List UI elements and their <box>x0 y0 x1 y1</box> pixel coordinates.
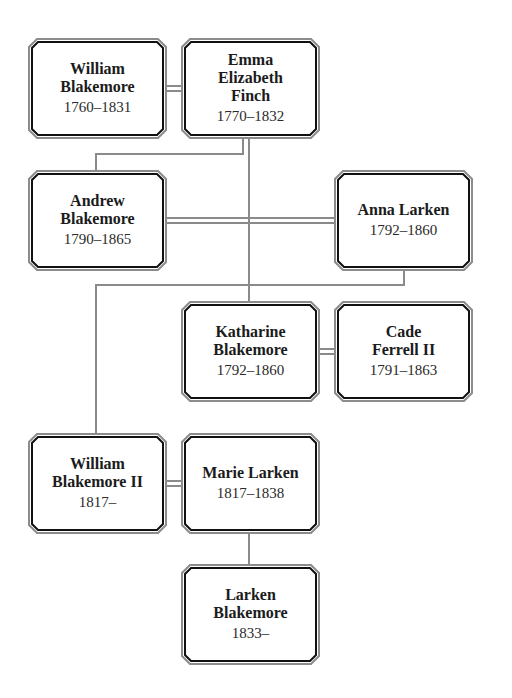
marriage-line-william-ii-marie <box>167 481 181 486</box>
person-box-emma-elizabeth-finch[interactable]: Emma Elizabeth Finch 1770–1832 <box>181 38 320 139</box>
name-line: Anna Larken <box>357 201 449 219</box>
person-name: Anna Larken <box>357 201 449 219</box>
name-line: William <box>60 60 134 78</box>
name-line: Blakemore II <box>52 473 143 491</box>
name-line: Katharine <box>213 323 287 341</box>
marriage-line-william-emma <box>167 86 181 91</box>
person-dates: 1770–1832 <box>217 106 285 126</box>
person-dates: 1833– <box>232 623 270 643</box>
name-line: Emma <box>218 51 283 69</box>
person-name: Katharine Blakemore <box>213 323 287 359</box>
person-name: Marie Larken <box>202 464 298 482</box>
person-name: Cade Ferrell II <box>372 323 435 359</box>
name-line: Ferrell II <box>372 341 435 359</box>
descent-line-to-andrew <box>96 139 243 170</box>
person-dates: 1792–1860 <box>217 360 285 380</box>
person-name: Andrew Blakemore <box>60 192 134 228</box>
person-name: William Blakemore <box>60 60 134 96</box>
name-line: Blakemore <box>213 604 287 622</box>
name-line: Blakemore <box>60 210 134 228</box>
person-box-cade-ferrell-ii[interactable]: Cade Ferrell II 1791–1863 <box>334 301 473 402</box>
name-line: Blakemore <box>213 341 287 359</box>
name-line: Cade <box>372 323 435 341</box>
person-dates: 1791–1863 <box>370 360 438 380</box>
name-line: Marie Larken <box>202 464 298 482</box>
person-name: Larken Blakemore <box>213 586 287 622</box>
person-box-andrew-blakemore[interactable]: Andrew Blakemore 1790–1865 <box>28 170 167 271</box>
marriage-line-katharine-cade <box>320 349 334 354</box>
person-name: William Blakemore II <box>52 455 143 491</box>
name-line: William <box>52 455 143 473</box>
person-dates: 1760–1831 <box>64 97 132 117</box>
person-box-william-blakemore-ii[interactable]: William Blakemore II 1817– <box>28 433 167 534</box>
person-box-marie-larken[interactable]: Marie Larken 1817–1838 <box>181 433 320 534</box>
person-dates: 1790–1865 <box>64 229 132 249</box>
person-name: Emma Elizabeth Finch <box>218 51 283 105</box>
name-line: Finch <box>218 87 283 105</box>
name-line: Elizabeth <box>218 69 283 87</box>
person-dates: 1792–1860 <box>370 220 438 240</box>
name-line: Andrew <box>60 192 134 210</box>
marriage-line-andrew-anna <box>167 218 334 223</box>
name-line: Blakemore <box>60 78 134 96</box>
person-box-william-blakemore[interactable]: William Blakemore 1760–1831 <box>28 38 167 139</box>
person-box-larken-blakemore[interactable]: Larken Blakemore 1833– <box>181 564 320 665</box>
name-line: Larken <box>213 586 287 604</box>
person-dates: 1817–1838 <box>217 483 285 503</box>
family-tree-diagram: William Blakemore 1760–1831 Emma Elizabe… <box>0 0 512 698</box>
person-dates: 1817– <box>79 492 117 512</box>
person-box-katharine-blakemore[interactable]: Katharine Blakemore 1792–1860 <box>181 301 320 402</box>
person-box-anna-larken[interactable]: Anna Larken 1792–1860 <box>334 170 473 271</box>
